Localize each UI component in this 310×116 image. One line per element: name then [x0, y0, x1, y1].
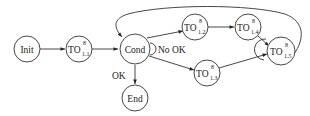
edge-to14-to15 [258, 36, 269, 46]
edge-cond-to12 [147, 31, 183, 38]
node-label-sup: 8 [285, 42, 288, 48]
node-label-base: TO [68, 45, 81, 55]
node-to11[interactable]: TO 8 1.1 [66, 36, 92, 62]
node-label-sup: 8 [211, 64, 214, 70]
node-label-base: TO [270, 47, 283, 57]
node-to13[interactable]: TO 8 1.3 [194, 60, 220, 86]
node-label-sub: 1.4 [251, 29, 259, 35]
node-label-sub: 1.1 [82, 51, 90, 57]
node-label: Cond [125, 45, 146, 55]
node-end[interactable]: End [122, 85, 148, 111]
branch-arc-cond [150, 43, 156, 55]
node-to12[interactable]: TO 8 1.2 [182, 14, 208, 40]
node-label: Init [20, 45, 34, 55]
node-label-sub: 1.5 [284, 53, 292, 59]
node-to14[interactable]: TO 8 1.4 [235, 14, 261, 40]
node-init[interactable]: Init [14, 36, 40, 62]
edge-to13-to15 [219, 54, 267, 68]
edge-cond-to13 [149, 56, 194, 70]
node-label-base: TO [196, 69, 209, 79]
node-label-base: TO [184, 23, 197, 33]
node-label-sup: 8 [252, 18, 255, 24]
node-label-sub: 1.2 [198, 29, 206, 35]
edge-label-no-ok: No OK [158, 45, 186, 55]
node-label-sup: 8 [83, 40, 86, 46]
node-cond[interactable]: Cond [120, 34, 150, 64]
node-label-sup: 8 [199, 18, 202, 24]
edge-label-ok: OK [112, 71, 126, 81]
node-to15[interactable]: TO 8 1.5 [267, 37, 295, 65]
diagram-canvas: OK No OK Init TO 8 1.1 Cond End TO 8 1.2… [0, 0, 310, 116]
node-label-sub: 1.3 [210, 75, 218, 81]
node-label: End [127, 94, 143, 104]
node-label-base: TO [237, 23, 250, 33]
